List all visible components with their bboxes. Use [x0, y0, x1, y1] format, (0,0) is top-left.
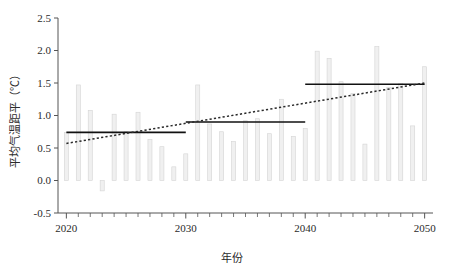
- y-tick-label-1.0: 1.0: [37, 109, 51, 121]
- bar-2045: [363, 144, 367, 180]
- bar-2042: [327, 58, 331, 180]
- bar-2048: [399, 84, 403, 181]
- bar-2029: [172, 167, 176, 181]
- x-axis-title: 年份: [221, 251, 243, 264]
- bar-2044: [351, 93, 355, 180]
- y-axis-tick-labels: -0.50.00.51.01.52.02.5: [34, 12, 52, 219]
- bar-2020: [64, 132, 68, 180]
- x-tick-label-2020: 2020: [55, 222, 78, 234]
- bar-2022: [88, 110, 92, 180]
- bar-2025: [124, 132, 128, 181]
- x-axis-tick-labels: 2020203020402050: [55, 222, 436, 234]
- bar-2040: [303, 129, 307, 181]
- y-tick-label-0.5: 0.5: [37, 142, 51, 154]
- y-tick-label-2.5: 2.5: [37, 12, 51, 24]
- bar-2023: [100, 181, 104, 191]
- bar-2027: [148, 140, 152, 181]
- bar-2036: [255, 119, 259, 181]
- bar-2038: [279, 99, 283, 180]
- bar-2032: [208, 124, 212, 181]
- bar-2030: [184, 154, 188, 181]
- x-tick-label-2030: 2030: [175, 222, 198, 234]
- bar-2035: [243, 121, 247, 181]
- bar-2028: [160, 147, 164, 181]
- bar-series: [64, 47, 426, 191]
- y-axis-title: 平均气温距平（℃）: [8, 69, 21, 168]
- y-tick-label-1.5: 1.5: [37, 77, 51, 89]
- bar-2024: [112, 114, 116, 180]
- x-tick-label-2050: 2050: [414, 222, 437, 234]
- y-tick-label-2.0: 2.0: [37, 44, 51, 56]
- bar-2031: [196, 85, 200, 181]
- y-tick-label-0.0: 0.0: [37, 174, 51, 186]
- bar-2026: [136, 112, 140, 180]
- bar-2046: [375, 47, 379, 181]
- chart-container: -0.50.00.51.01.52.02.5 2020203020402050 …: [0, 0, 450, 269]
- bar-2047: [387, 88, 391, 181]
- bar-2039: [291, 136, 295, 180]
- y-tick-label--0.5: -0.5: [34, 207, 52, 219]
- bar-2041: [315, 51, 319, 180]
- x-tick-label-2040: 2040: [294, 222, 317, 234]
- bar-2037: [267, 134, 271, 181]
- x-axis-ticks: [66, 213, 424, 219]
- y-axis-ticks: [54, 18, 58, 213]
- temperature-anomaly-bar-chart: -0.50.00.51.01.52.02.5 2020203020402050 …: [0, 0, 450, 269]
- bar-2034: [232, 142, 236, 181]
- bar-2049: [411, 126, 415, 181]
- bar-2033: [220, 132, 224, 181]
